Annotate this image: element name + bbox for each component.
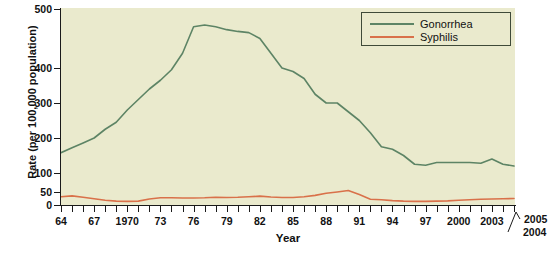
x-tick-mark bbox=[271, 206, 272, 212]
x-tick-mark bbox=[293, 206, 294, 212]
x-tick-label: 2003 bbox=[480, 215, 503, 227]
x-tick-mark bbox=[470, 206, 471, 212]
y-tick-mark bbox=[54, 9, 61, 10]
x-tick-mark bbox=[61, 206, 62, 212]
x-tick-label: 94 bbox=[387, 215, 399, 227]
legend-entry-gonorrhea: Gonorrhea bbox=[362, 17, 512, 31]
x-tick-mark bbox=[183, 206, 184, 212]
legend-swatch-syphilis bbox=[370, 36, 414, 38]
x-tick-mark bbox=[227, 206, 228, 212]
x-tick-mark bbox=[72, 206, 73, 212]
x-tick-label: 76 bbox=[188, 215, 200, 227]
x-tick-label: 91 bbox=[353, 215, 365, 227]
x-tick-mark bbox=[503, 206, 504, 212]
series-line-syphilis bbox=[61, 190, 514, 201]
x-tick-mark bbox=[426, 206, 427, 212]
legend-label-gonorrhea: Gonorrhea bbox=[420, 17, 473, 31]
legend-entry-syphilis: Syphilis bbox=[362, 30, 512, 44]
x-axis-title: Year bbox=[258, 232, 318, 244]
x-tick-label: 64 bbox=[55, 215, 67, 227]
x-tick-mark bbox=[83, 206, 84, 212]
x-tick-mark bbox=[94, 206, 95, 212]
x-tick-label: 73 bbox=[155, 215, 167, 227]
x-tick-mark bbox=[138, 206, 139, 212]
x-tick-mark bbox=[459, 206, 460, 212]
x-tick-mark bbox=[160, 206, 161, 212]
legend-label-syphilis: Syphilis bbox=[420, 30, 458, 44]
x-tick-label: 2000 bbox=[447, 215, 470, 227]
x-tick-mark bbox=[127, 206, 128, 212]
x-tick-mark bbox=[514, 206, 515, 212]
x-tick-mark bbox=[238, 206, 239, 212]
x-tick-mark bbox=[348, 206, 349, 212]
x-tick-label: 1970 bbox=[116, 215, 139, 227]
x-tick-mark bbox=[337, 206, 338, 212]
x-tick-label: 85 bbox=[287, 215, 299, 227]
y-axis-title: Rate (per 100,000 population) bbox=[26, 2, 38, 202]
y-axis-line bbox=[60, 8, 61, 205]
x-tick-mark bbox=[282, 206, 283, 212]
y-tick-mark bbox=[54, 205, 61, 206]
series-line-gonorrhea bbox=[61, 25, 514, 166]
x-tick-mark bbox=[105, 206, 106, 212]
x-tick-label: 97 bbox=[420, 215, 432, 227]
y-tick-mark bbox=[54, 103, 61, 104]
y-tick-mark bbox=[54, 173, 61, 174]
x-tick-mark bbox=[205, 206, 206, 212]
y-tick-mark bbox=[54, 138, 61, 139]
chart-legend: Gonorrhea Syphilis bbox=[361, 12, 511, 46]
x-tick-mark bbox=[260, 206, 261, 212]
x-tick-mark bbox=[116, 206, 117, 212]
x-tick-mark bbox=[249, 206, 250, 212]
x-tick-label: 2004 bbox=[523, 226, 546, 238]
x-tick-mark bbox=[304, 206, 305, 212]
x-tick-mark bbox=[315, 206, 316, 212]
y-tick-mark bbox=[54, 192, 61, 193]
x-tick-mark bbox=[149, 206, 150, 212]
x-tick-mark bbox=[415, 206, 416, 212]
x-tick-mark bbox=[392, 206, 393, 212]
x-tick-label: 67 bbox=[88, 215, 100, 227]
x-tick-mark bbox=[448, 206, 449, 212]
x-tick-mark bbox=[171, 206, 172, 212]
y-tick-mark bbox=[54, 68, 61, 69]
x-tick-mark bbox=[359, 206, 360, 212]
x-tick-label: 2005 bbox=[524, 213, 547, 225]
x-tick-mark bbox=[404, 206, 405, 212]
x-tick-label: 79 bbox=[221, 215, 233, 227]
x-tick-label: 88 bbox=[320, 215, 332, 227]
x-tick-mark bbox=[194, 206, 195, 212]
x-tick-mark bbox=[481, 206, 482, 212]
x-tick-mark bbox=[326, 206, 327, 212]
chart-screenshot: 050100200300400500 646719707376798285889… bbox=[0, 0, 555, 260]
x-tick-mark bbox=[437, 206, 438, 212]
legend-swatch-gonorrhea bbox=[370, 23, 414, 25]
x-tick-mark bbox=[492, 206, 493, 212]
x-tick-mark bbox=[370, 206, 371, 212]
x-tick-mark bbox=[216, 206, 217, 212]
x-tick-label: 82 bbox=[254, 215, 266, 227]
x-tick-mark bbox=[381, 206, 382, 212]
